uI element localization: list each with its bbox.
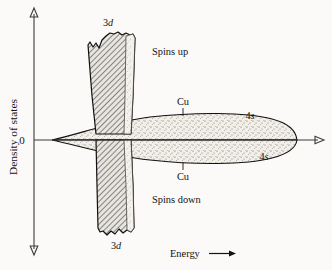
origin-zero-label: 0	[19, 134, 25, 146]
d-band-spins-down-group	[96, 140, 134, 235]
cu-lower-label: Cu	[177, 171, 190, 182]
density-of-states-figure: 0 Density of states Energy 3d 3d Spins u…	[0, 0, 332, 270]
spins-up-label: Spins up	[152, 46, 188, 57]
s-band-bottom-letter: s	[265, 151, 269, 162]
d-band-top-label: 3d	[103, 17, 114, 28]
s-band-top-letter: s	[251, 110, 255, 121]
x-axis-label: Energy	[170, 248, 201, 259]
s-band-spins-up-area	[52, 113, 297, 140]
d-band-spins-up-group	[88, 32, 135, 134]
d-band-spins-up-light-strip	[124, 34, 135, 134]
x-axis-label-arrow	[209, 251, 236, 257]
cu-upper-label: Cu	[177, 96, 190, 107]
d-band-bottom-letter: d	[116, 240, 122, 251]
dos-svg-canvas: 0 Density of states Energy 3d 3d Spins u…	[0, 0, 332, 270]
spins-down-label: Spins down	[152, 194, 202, 205]
d-band-top-letter: d	[108, 17, 114, 28]
s-band-top-label: 4s	[245, 110, 254, 121]
s-band-bottom-label: 4s	[259, 151, 268, 162]
y-axis-label: Density of states	[7, 99, 19, 175]
d-band-bottom-label: 3d	[111, 240, 122, 251]
